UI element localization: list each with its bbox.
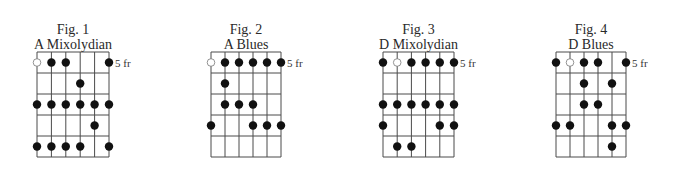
- note-marker: [552, 58, 560, 66]
- note-marker: [235, 58, 243, 66]
- note-marker: [594, 58, 602, 66]
- note-marker: [221, 58, 229, 66]
- note-marker: [379, 100, 387, 108]
- note-marker: [263, 58, 271, 66]
- fretboard-grid: 5 fr: [552, 52, 648, 157]
- note-marker: [277, 58, 285, 66]
- fret-position-label: 5 fr: [115, 57, 131, 69]
- fretboard-grids: 5 fr5 fr5 fr5 fr: [0, 0, 686, 169]
- fretboard-grid: 5 fr: [207, 52, 303, 157]
- note-marker: [90, 121, 98, 129]
- note-marker: [450, 121, 458, 129]
- fretboard-grid: 5 fr: [379, 52, 476, 157]
- fret-position-label: 5 fr: [460, 57, 476, 69]
- note-marker: [450, 100, 458, 108]
- note-marker: [594, 100, 602, 108]
- fret-position-label: 5 fr: [287, 57, 303, 69]
- note-marker: [622, 121, 630, 129]
- note-marker: [393, 142, 401, 150]
- note-marker: [105, 100, 113, 108]
- note-marker: [407, 100, 415, 108]
- note-marker: [221, 100, 229, 108]
- note-marker: [33, 100, 41, 108]
- open-root-note-marker: [207, 59, 215, 67]
- note-marker: [407, 58, 415, 66]
- note-marker: [379, 58, 387, 66]
- note-marker: [580, 79, 588, 87]
- note-marker: [421, 100, 429, 108]
- note-marker: [450, 58, 458, 66]
- note-marker: [580, 58, 588, 66]
- note-marker: [62, 100, 70, 108]
- note-marker: [608, 79, 616, 87]
- note-marker: [622, 58, 630, 66]
- note-marker: [105, 142, 113, 150]
- note-marker: [221, 79, 229, 87]
- note-marker: [76, 142, 84, 150]
- note-marker: [47, 58, 55, 66]
- note-marker: [47, 100, 55, 108]
- open-root-note-marker: [33, 59, 41, 67]
- note-marker: [249, 100, 257, 108]
- note-marker: [62, 58, 70, 66]
- note-marker: [436, 100, 444, 108]
- note-marker: [580, 100, 588, 108]
- note-marker: [207, 121, 215, 129]
- note-marker: [436, 58, 444, 66]
- note-marker: [608, 142, 616, 150]
- note-marker: [62, 142, 70, 150]
- note-marker: [33, 142, 41, 150]
- note-marker: [105, 58, 113, 66]
- note-marker: [47, 142, 55, 150]
- note-marker: [235, 100, 243, 108]
- note-marker: [436, 121, 444, 129]
- note-marker: [76, 100, 84, 108]
- note-marker: [249, 58, 257, 66]
- note-marker: [421, 58, 429, 66]
- note-marker: [90, 100, 98, 108]
- note-marker: [76, 79, 84, 87]
- note-marker: [566, 121, 574, 129]
- note-marker: [263, 121, 271, 129]
- note-marker: [407, 142, 415, 150]
- note-marker: [552, 121, 560, 129]
- open-root-note-marker: [393, 59, 401, 67]
- note-marker: [277, 121, 285, 129]
- fretboard-grid: 5 fr: [33, 52, 131, 157]
- note-marker: [379, 121, 387, 129]
- fret-position-label: 5 fr: [632, 57, 648, 69]
- note-marker: [608, 121, 616, 129]
- note-marker: [249, 121, 257, 129]
- open-root-note-marker: [566, 59, 574, 67]
- note-marker: [393, 100, 401, 108]
